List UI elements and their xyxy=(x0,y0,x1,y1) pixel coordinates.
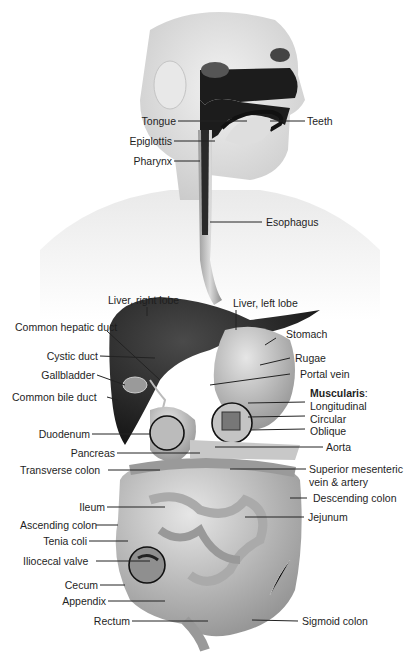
label-cystic-duct: Cystic duct xyxy=(30,350,98,362)
label-muscularis-colon: : xyxy=(365,387,368,399)
label-teeth: Teeth xyxy=(307,115,333,127)
label-ascending-colon: Ascending colon xyxy=(20,519,97,531)
label-liver-right-lobe: Liver, right lobe xyxy=(108,294,179,306)
label-longitudinal: Longitudinal xyxy=(310,400,367,412)
label-pancreas: Pancreas xyxy=(40,447,115,459)
label-jejunum: Jejunum xyxy=(308,511,348,523)
intestines xyxy=(116,462,302,650)
label-appendix: Appendix xyxy=(40,595,106,607)
label-muscularis: Muscularis: xyxy=(310,387,368,399)
label-esophagus: Esophagus xyxy=(266,216,319,228)
label-rectum: Rectum xyxy=(70,615,130,627)
label-cecum: Cecum xyxy=(40,579,98,591)
label-iliocecal-valve: Iliocecal valve xyxy=(23,555,88,567)
label-muscularis-title: Muscularis xyxy=(310,387,365,399)
label-rugae: Rugae xyxy=(295,352,326,364)
head xyxy=(140,12,305,200)
label-aorta: Aorta xyxy=(326,441,351,453)
label-superior-mesenteric-1: Superior mesenteric xyxy=(309,463,403,475)
label-tongue: Tongue xyxy=(108,115,176,127)
stomach xyxy=(212,327,295,443)
label-sigmoid-colon: Sigmoid colon xyxy=(302,615,368,627)
label-epiglottis: Epiglottis xyxy=(100,135,172,147)
label-descending-colon: Descending colon xyxy=(313,492,396,504)
label-tenia-coli: Tenia coli xyxy=(20,535,87,547)
label-gallbladder: Gallbladder xyxy=(20,369,95,381)
label-transverse-colon: Transverse colon xyxy=(20,464,100,476)
label-common-bile-duct: Common bile duct xyxy=(12,391,97,403)
label-oblique: Oblique xyxy=(310,425,346,437)
label-circular: Circular xyxy=(310,413,346,425)
label-pharynx: Pharynx xyxy=(100,155,172,167)
label-liver-left-lobe: Liver, left lobe xyxy=(233,297,298,309)
label-ileum: Ileum xyxy=(50,501,105,513)
label-stomach: Stomach xyxy=(286,328,327,340)
label-superior-mesenteric-2: vein & artery xyxy=(309,476,368,488)
label-common-hepatic-duct: Common hepatic duct xyxy=(15,321,117,333)
label-portal-vein: Portal vein xyxy=(300,368,350,380)
label-duodenum: Duodenum xyxy=(20,428,90,440)
